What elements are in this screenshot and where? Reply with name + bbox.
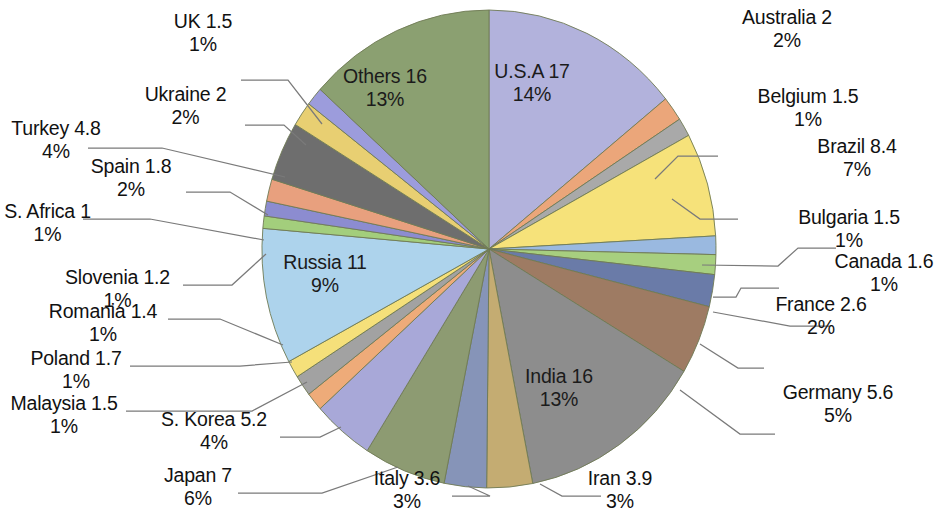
slice-label-japan-line1: Japan 7 — [152, 464, 244, 487]
slice-label-russia: Russia 11 9% — [255, 251, 395, 296]
slice-label-slovenia-line2: 1% — [52, 289, 183, 312]
slice-label-poland-line2: 1% — [22, 370, 130, 393]
slice-label-slovenia: Slovenia 1.2 1% — [52, 266, 183, 311]
slice-label-france-line1: France 2.6 — [759, 293, 883, 316]
slice-label-others-line1: Others 16 — [310, 65, 460, 88]
leader-line-spain — [186, 192, 268, 215]
slice-label-india-line1: India 16 — [489, 365, 629, 388]
leader-line-germany — [680, 390, 775, 434]
slice-label-brazil-line2: 7% — [794, 158, 920, 181]
slice-label-bulgaria: Bulgaria 1.5 1% — [779, 206, 919, 251]
slice-label-iran-line1: Iran 3.9 — [564, 467, 676, 490]
slice-label-russia-line1: Russia 11 — [255, 251, 395, 274]
slice-label-turkey-line2: 4% — [0, 140, 112, 163]
slice-label-canada-line2: 1% — [823, 273, 938, 296]
slice-label-uk: UK 1.5 1% — [165, 10, 241, 55]
slice-label-slovenia-line1: Slovenia 1.2 — [52, 266, 183, 289]
slice-label-ukraine-line1: Ukraine 2 — [126, 83, 245, 106]
slice-label-others: Others 16 13% — [310, 65, 460, 110]
slice-label-germany-line1: Germany 5.6 — [766, 381, 910, 404]
slice-label-turkey-line1: Turkey 4.8 — [0, 117, 112, 140]
slice-label-india: India 16 13% — [489, 365, 629, 410]
slice-label-usa-line1: U.S.A 17 — [462, 60, 602, 83]
slice-label-ukraine-line2: 2% — [126, 106, 245, 129]
slice-label-japan: Japan 7 6% — [152, 464, 244, 509]
slice-label-others-line2: 13% — [310, 88, 460, 111]
leader-line-safrica — [83, 219, 264, 240]
slice-label-turkey: Turkey 4.8 4% — [0, 117, 112, 162]
slice-label-iran-line2: 3% — [564, 490, 676, 513]
slice-label-france-line2: 2% — [759, 316, 883, 339]
slice-label-australia-line1: Australia 2 — [718, 6, 856, 29]
slice-label-poland-line1: Poland 1.7 — [22, 347, 130, 370]
slice-label-italy: Italy 3.6 3% — [352, 467, 462, 512]
slice-label-germany: Germany 5.6 5% — [766, 381, 910, 426]
slice-label-iran: Iran 3.9 3% — [564, 467, 676, 512]
slice-label-uk-line1: UK 1.5 — [165, 10, 241, 33]
slice-label-russia-line2: 9% — [255, 274, 395, 297]
slice-label-malaysia-line2: 1% — [2, 415, 126, 438]
slice-label-safrica-line2: 1% — [0, 223, 95, 246]
leader-line-poland — [130, 362, 292, 366]
slice-label-spain-line2: 2% — [76, 178, 186, 201]
leader-line-france — [700, 344, 764, 368]
slice-label-usa-line2: 14% — [462, 83, 602, 106]
slice-label-canada-line1: Canada 1.6 — [823, 250, 938, 273]
slice-label-bulgaria-line1: Bulgaria 1.5 — [779, 206, 919, 229]
slice-label-bulgaria-line2: 1% — [779, 229, 919, 252]
slice-label-safrica-line1: S. Africa 1 — [0, 200, 95, 223]
leader-line-slovenia — [183, 254, 266, 285]
slice-label-italy-line2: 3% — [352, 490, 462, 513]
slice-label-skorea-line1: S. Korea 5.2 — [148, 408, 280, 431]
slice-label-belgium-line1: Belgium 1.5 — [738, 85, 878, 108]
slice-label-japan-line2: 6% — [152, 487, 244, 510]
leader-line-malaysia — [126, 382, 307, 411]
slice-label-malaysia-line1: Malaysia 1.5 — [2, 392, 126, 415]
slice-label-australia-line2: 2% — [718, 29, 856, 52]
slice-label-germany-line2: 5% — [766, 404, 910, 427]
leader-line-romania — [168, 319, 283, 345]
slice-label-italy-line1: Italy 3.6 — [352, 467, 462, 490]
slice-label-belgium-line2: 1% — [738, 108, 878, 131]
slice-label-uk-line2: 1% — [165, 33, 241, 56]
slice-label-skorea-line2: 4% — [148, 431, 280, 454]
slice-label-romania-line2: 1% — [38, 323, 168, 346]
slice-label-france: France 2.6 2% — [759, 293, 883, 338]
leader-line-skorea — [280, 427, 341, 437]
slice-label-skorea: S. Korea 5.2 4% — [148, 408, 280, 453]
slice-label-brazil-line1: Brazil 8.4 — [794, 135, 920, 158]
slice-label-india-line2: 13% — [489, 388, 629, 411]
slice-label-safrica: S. Africa 1 1% — [0, 200, 95, 245]
slice-label-brazil: Brazil 8.4 7% — [794, 135, 920, 180]
slice-label-belgium: Belgium 1.5 1% — [738, 85, 878, 130]
slice-label-ukraine: Ukraine 2 2% — [126, 83, 245, 128]
slice-label-poland: Poland 1.7 1% — [22, 347, 130, 392]
slice-label-australia: Australia 2 2% — [718, 6, 856, 51]
slice-label-malaysia: Malaysia 1.5 1% — [2, 392, 126, 437]
slice-label-canada: Canada 1.6 1% — [823, 250, 938, 295]
slice-label-usa: U.S.A 17 14% — [462, 60, 602, 105]
